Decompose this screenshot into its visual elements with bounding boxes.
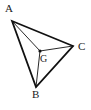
geometry-figure: A B C G xyxy=(0,0,91,110)
centroid-label-g: G xyxy=(40,54,47,64)
vertex-label-a: A xyxy=(5,3,13,14)
median-segment-ag xyxy=(12,21,40,51)
vertex-label-c: C xyxy=(78,41,85,52)
vertex-label-b: B xyxy=(32,89,39,100)
